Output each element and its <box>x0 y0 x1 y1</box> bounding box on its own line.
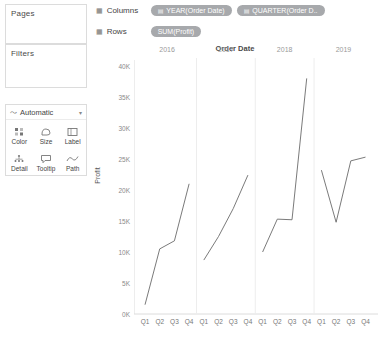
x-axis-year-label: 2019 <box>336 46 352 53</box>
x-axis-quarter-label: Q1 <box>317 318 326 325</box>
left-sidebar: Pages Filters Marks 〜 Automatic ▾ <box>0 0 90 341</box>
color-icon <box>14 126 25 138</box>
pill-quarter-order-date-text: QUARTER(Order D.. <box>252 7 317 14</box>
marks-label-button[interactable]: Label <box>59 122 86 149</box>
x-axis-quarter-label: Q3 <box>170 318 179 325</box>
mark-type-label: Automatic <box>20 108 79 117</box>
x-axis-year-label: 2016 <box>159 46 175 53</box>
marks-color-label: Color <box>12 139 28 146</box>
x-axis-quarter-label: Q4 <box>185 318 194 325</box>
filters-card[interactable]: Filters <box>5 44 87 88</box>
x-axis-quarter-label: Q3 <box>288 318 297 325</box>
marks-button-grid: Color Size Label <box>6 120 86 176</box>
marks-path-label: Path <box>66 166 79 173</box>
columns-shelf[interactable]: ▦ Columns ▤ YEAR(Order Date) ▤ QUARTER(O… <box>90 0 380 21</box>
path-icon <box>66 153 79 165</box>
x-axis-quarter-label: Q3 <box>346 318 355 325</box>
x-axis-quarter-label: Q1 <box>141 318 150 325</box>
calendar-icon: ▤ <box>158 7 164 14</box>
pill-sum-profit[interactable]: SUM(Profit) <box>151 26 202 37</box>
plot-region: 2016201720182019Q1Q2Q3Q4Q1Q2Q3Q4Q1Q2Q3Q4… <box>134 42 378 341</box>
x-axis-quarter-label: Q2 <box>155 318 164 325</box>
y-axis-tick-label: 0K <box>104 311 130 318</box>
rows-shelf[interactable]: ▦ Rows SUM(Profit) <box>90 21 380 42</box>
pill-sum-profit-text: SUM(Profit) <box>158 28 195 35</box>
marks-color-button[interactable]: Color <box>6 122 33 149</box>
y-axis-tick-label: 40K <box>104 63 130 70</box>
chevron-down-icon: ▾ <box>79 109 82 116</box>
y-axis-tick-label: 15K <box>104 218 130 225</box>
y-axis-tick-label: 30K <box>104 125 130 132</box>
x-axis-quarter-label: Q3 <box>229 318 238 325</box>
line-chart-svg <box>134 42 378 341</box>
marks-size-button[interactable]: Size <box>33 122 60 149</box>
x-axis-quarter-label: Q1 <box>199 318 208 325</box>
y-axis-tick-label: 10K <box>104 249 130 256</box>
x-axis-quarter-label: Q2 <box>273 318 282 325</box>
marks-tooltip-label: Tooltip <box>37 166 56 173</box>
series-line-segment <box>145 184 189 305</box>
marks-detail-button[interactable]: Detail <box>6 149 33 176</box>
series-line-segment <box>321 157 365 222</box>
y-axis-tick-label: 5K <box>104 280 130 287</box>
mark-type-selector[interactable]: 〜 Automatic ▾ <box>6 105 86 120</box>
marks-path-button[interactable]: Path <box>59 149 86 176</box>
line-mark-icon: 〜 <box>10 109 17 116</box>
marks-detail-label: Detail <box>11 166 28 173</box>
marks-card-body: 〜 Automatic ▾ Color <box>5 104 87 176</box>
detail-icon <box>13 153 25 165</box>
x-axis-quarter-label: Q4 <box>244 318 253 325</box>
y-axis-tick-label: 35K <box>104 94 130 101</box>
x-axis-quarter-label: Q1 <box>258 318 267 325</box>
marks-label-label: Label <box>65 139 81 146</box>
x-axis-quarter-label: Q2 <box>214 318 223 325</box>
grid-icon: ▦ <box>96 28 103 35</box>
pill-year-order-date[interactable]: ▤ YEAR(Order Date) <box>151 5 232 16</box>
pages-card[interactable]: Pages <box>5 4 87 44</box>
y-axis-tick-label: 25K <box>104 156 130 163</box>
x-axis-quarter-label: Q2 <box>332 318 341 325</box>
worksheet-pane: ▦ Columns ▤ YEAR(Order Date) ▤ QUARTER(O… <box>90 0 380 341</box>
pill-quarter-order-date[interactable]: ▤ QUARTER(Order D.. <box>237 5 325 16</box>
series-line-segment <box>263 78 307 252</box>
marks-tooltip-button[interactable]: Tooltip <box>33 149 60 176</box>
x-axis-year-label: 2018 <box>277 46 293 53</box>
x-axis-quarter-label: Q4 <box>302 318 311 325</box>
pill-year-order-date-text: YEAR(Order Date) <box>166 7 224 14</box>
x-axis-quarter-label: Q4 <box>361 318 370 325</box>
y-axis-tick-label: 20K <box>104 187 130 194</box>
label-icon <box>67 126 78 138</box>
chart-area: Order Date Profit 0K5K10K15K20K25K30K35K… <box>90 42 380 341</box>
filters-card-title: Filters <box>6 45 86 58</box>
grid-icon: ▦ <box>96 7 103 14</box>
size-icon <box>40 126 52 138</box>
calendar-icon: ▤ <box>244 7 250 14</box>
pages-card-title: Pages <box>6 5 86 18</box>
shelves-region: ▦ Columns ▤ YEAR(Order Date) ▤ QUARTER(O… <box>90 0 380 42</box>
tooltip-icon <box>40 153 52 165</box>
series-line-segment <box>204 175 248 260</box>
rows-shelf-label: Rows <box>107 27 151 36</box>
y-axis-ticks: 0K5K10K15K20K25K30K35K40K <box>90 42 130 341</box>
x-axis-year-label: 2017 <box>218 46 234 53</box>
marks-size-label: Size <box>40 139 53 146</box>
columns-shelf-label: Columns <box>107 6 151 15</box>
